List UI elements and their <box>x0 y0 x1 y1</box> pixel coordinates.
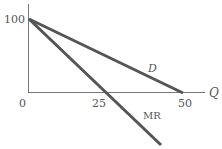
marginal-revenue-line <box>29 19 161 145</box>
chart-plot <box>0 0 222 149</box>
y-tick-100: 100 <box>4 14 25 25</box>
mr-label: MR <box>143 111 161 121</box>
x-tick-25: 25 <box>92 98 106 109</box>
demand-label: D <box>148 63 157 74</box>
x-tick-50: 50 <box>178 98 192 109</box>
x-axis-label: Q <box>209 87 219 99</box>
x-tick-0: 0 <box>19 98 26 109</box>
demand-line <box>29 19 183 93</box>
